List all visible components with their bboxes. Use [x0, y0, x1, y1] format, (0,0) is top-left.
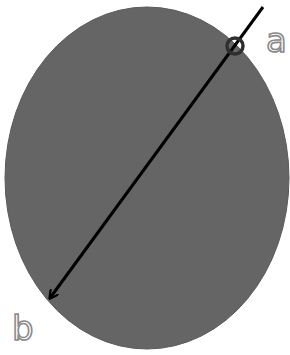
- diagram-canvas: a b: [0, 0, 290, 355]
- ellipse-shape: [5, 7, 289, 349]
- label-a: a: [266, 20, 287, 60]
- label-b: b: [12, 308, 34, 348]
